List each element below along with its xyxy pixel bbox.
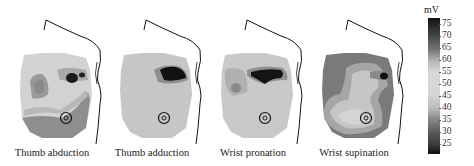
colorbar-tick: 45 [442, 90, 452, 100]
colorbar-tick: 70 [442, 30, 452, 40]
colorbar [428, 18, 440, 154]
caption-thumb-adduction: Thumb adduction [102, 147, 202, 158]
colorbar-tick: 50 [442, 78, 452, 88]
caption-wrist-pronation: Wrist pronation [203, 147, 303, 158]
colorbar-unit-label: mV [424, 4, 439, 15]
colorbar-tick: 60 [442, 54, 452, 64]
colorbar-tick: 30 [442, 126, 452, 136]
colorbar-tick: 55 [442, 66, 452, 76]
panel-thumb-abduction: Thumb abduction [2, 0, 102, 166]
panel-wrist-supination: Wrist supination [304, 0, 404, 166]
colorbar-tick: 65 [442, 42, 452, 52]
caption-thumb-abduction: Thumb abduction [2, 147, 102, 158]
colorbar-tick: 40 [442, 102, 452, 112]
heatmap-wrist-pronation [203, 0, 303, 166]
colorbar-tick: 75 [442, 18, 452, 28]
heatmap-thumb-adduction [102, 0, 202, 166]
panel-thumb-adduction: Thumb adduction [102, 0, 202, 166]
caption-wrist-supination: Wrist supination [304, 147, 404, 158]
heatmap-wrist-supination [304, 0, 404, 166]
colorbar-tick: 25 [442, 138, 452, 148]
colorbar-tick: 35 [442, 114, 452, 124]
heatmap-thumb-abduction [2, 0, 102, 166]
panel-wrist-pronation: Wrist pronation [203, 0, 303, 166]
